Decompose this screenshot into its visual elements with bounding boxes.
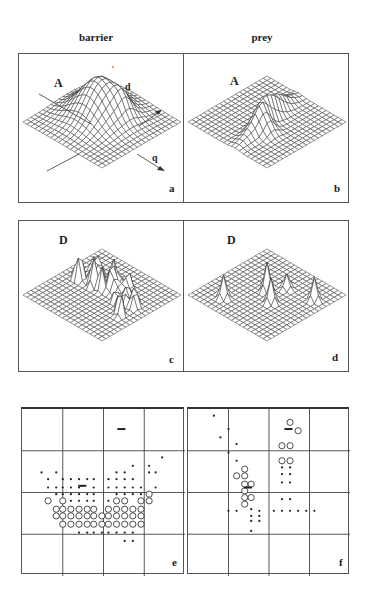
surface-plot-d [184,221,350,373]
panel-letter-b: b [334,182,340,194]
surface-plot-b [184,54,350,204]
surface-plot-c [19,221,185,373]
column-title-barrier: barrier [56,31,136,43]
panel-e-scatter: e [21,407,184,574]
column-title-prey: prey [222,31,302,43]
panel-letter-e: e [172,556,177,568]
quantity-label-a: A [54,76,63,91]
panel-letter-d: d [332,351,338,363]
panel-a-surface: A d q ' a [18,53,184,203]
axis-label-d: d [125,81,131,92]
panel-c-surface: D c [18,220,184,372]
scatter-plot-e [22,409,185,576]
panel-letter-c: c [169,353,174,365]
axis-label-q: q [152,152,158,163]
panel-f-scatter: f [187,407,349,574]
panel-d-surface: D d [183,220,349,372]
scatter-plot-f [188,409,350,576]
panel-b-surface: A b [183,53,349,203]
quantity-label-b: A [230,74,239,89]
surface-plot-a [19,54,185,204]
panel-letter-f: f [339,556,343,568]
quantity-label-c: D [59,233,68,248]
panel-letter-a: a [169,182,175,194]
quantity-label-d: D [227,233,236,248]
tick-mark: ' [112,64,114,75]
